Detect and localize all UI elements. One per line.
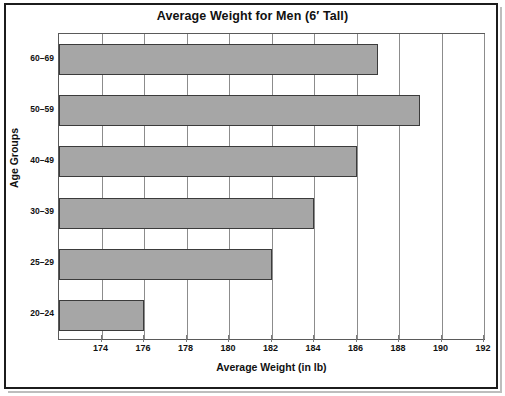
gridline-182 (272, 34, 273, 339)
x-axis-tick-label: 176 (123, 343, 163, 353)
x-axis-tick-mark (483, 335, 484, 342)
x-axis-tick-label: 178 (166, 343, 206, 353)
y-axis-tick-label: 60–69 (6, 53, 54, 63)
frame-shadow-bottom (8, 391, 502, 393)
gridline-190 (442, 34, 443, 339)
x-axis-tick-label: 182 (251, 343, 291, 353)
bar-50–59 (59, 95, 420, 126)
chart-screenshot: Average Weight for Men (6′ Tall) Age Gro… (0, 0, 505, 396)
plot-area (58, 33, 485, 340)
bar-30–39 (59, 198, 314, 229)
gridline-188 (399, 34, 400, 339)
gridline-184 (314, 34, 315, 339)
gridline-192 (484, 34, 485, 339)
x-axis-tick-mark (143, 335, 144, 342)
y-axis-tick-label: 40–49 (6, 155, 54, 165)
x-axis-tick-label: 186 (336, 343, 376, 353)
x-axis-tick-label: 174 (81, 343, 121, 353)
x-axis-tick-mark (441, 335, 442, 342)
y-axis-tick-labels: 20–2425–2930–3940–4950–5960–69 (0, 33, 54, 340)
gridline-186 (357, 34, 358, 339)
gridline-180 (229, 34, 230, 339)
bar-60–69 (59, 44, 378, 75)
x-axis-tick-mark (313, 335, 314, 342)
y-axis-tick-label: 20–24 (6, 308, 54, 318)
x-axis-tick-mark (356, 335, 357, 342)
y-axis-tick-label: 30–39 (6, 206, 54, 216)
x-axis-tick-label: 190 (421, 343, 461, 353)
bar-40–49 (59, 146, 357, 177)
y-axis-tick-label: 25–29 (6, 257, 54, 267)
x-axis-tick-label: 188 (378, 343, 418, 353)
x-axis-title: Average Weight (in lb) (58, 361, 485, 373)
x-axis-tick-labels: 174176178180182184186188190192 (58, 343, 485, 357)
bar-20–24 (59, 300, 144, 331)
x-axis-tick-label: 180 (208, 343, 248, 353)
gridline-174 (102, 34, 103, 339)
y-axis-tick-label: 50–59 (6, 104, 54, 114)
gridline-178 (187, 34, 188, 339)
x-axis-tick-mark (186, 335, 187, 342)
x-axis-tick-mark (101, 335, 102, 342)
gridline-176 (144, 34, 145, 339)
x-axis-tick-mark (398, 335, 399, 342)
bar-25–29 (59, 249, 272, 280)
chart-title: Average Weight for Men (6′ Tall) (0, 9, 505, 23)
x-axis-tick-mark (228, 335, 229, 342)
x-axis-tick-label: 192 (463, 343, 503, 353)
x-axis-tick-label: 184 (293, 343, 333, 353)
frame-shadow-right (500, 7, 502, 393)
x-axis-tick-mark (271, 335, 272, 342)
